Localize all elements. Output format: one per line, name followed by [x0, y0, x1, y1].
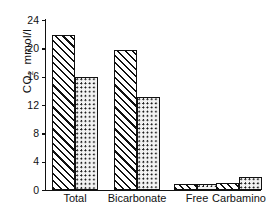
y-tick-mark: [42, 190, 46, 191]
y-tick-mark: [42, 162, 46, 163]
bar-free-hatched: [174, 184, 197, 190]
y-tick-mark: [42, 105, 46, 106]
y-tick-label: 4: [33, 154, 39, 168]
x-axis-label-carbamino: Carbamino: [194, 192, 269, 204]
y-tick-label: 12: [27, 98, 39, 112]
y-tick-mark: [42, 20, 46, 21]
bar-total-hatched: [52, 35, 75, 190]
bar-bicarbonate-hatched: [114, 50, 137, 190]
bar-carbamino-stippled: [239, 177, 262, 190]
y-tick-label: 24: [27, 13, 39, 27]
bar-bicarbonate-stippled: [137, 97, 160, 191]
bar-carbamino-hatched: [216, 183, 239, 190]
y-tick-label: 8: [33, 126, 39, 140]
y-tick-label: 20: [27, 41, 39, 55]
y-tick-mark: [42, 48, 46, 49]
bar-total-stippled: [75, 77, 98, 190]
co2-bar-chart: CO2mmol/l 04812162024 TotalBicarbonateFr…: [0, 0, 269, 219]
y-tick-mark: [42, 133, 46, 134]
plot-area: 04812162024: [46, 20, 261, 190]
y-tick-label: 16: [27, 69, 39, 83]
y-tick-mark: [42, 77, 46, 78]
